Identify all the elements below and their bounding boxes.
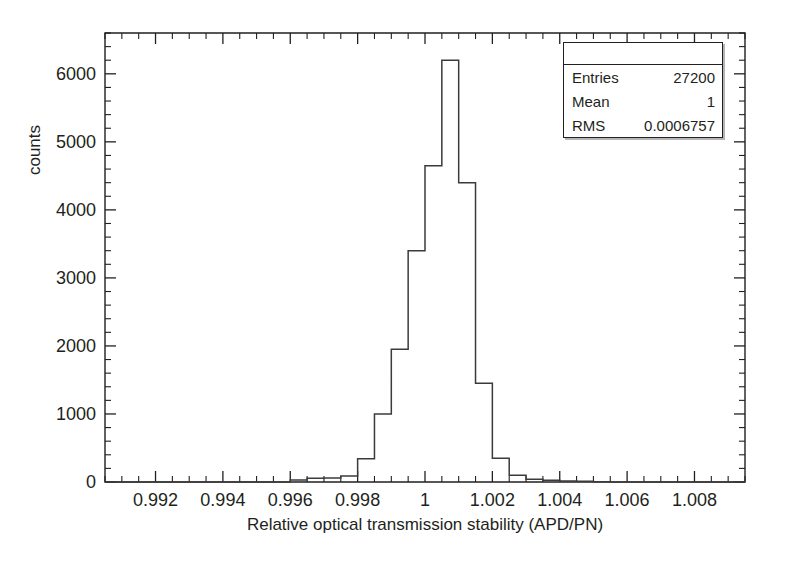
y-tick-label: 4000 [56,200,96,220]
chart-canvas: 0.9920.9940.9960.99811.0021.0041.0061.00… [0,0,785,561]
stats-rows: Entries27200Mean1RMS0.0006757 [564,65,722,137]
x-axis-title: Relative optical transmission stability … [247,515,603,534]
y-tick-label: 5000 [56,132,96,152]
y-tick-label: 2000 [56,336,96,356]
stats-row-key: Mean [572,93,610,110]
y-tick-label: 0 [86,472,96,492]
stats-row-key: RMS [572,117,605,134]
stats-row-value: 27200 [673,69,715,86]
stats-row: Mean1 [564,89,722,113]
stats-row: RMS0.0006757 [564,113,722,137]
x-tick-label: 1.008 [672,490,717,510]
x-tick-label: 1.006 [605,490,650,510]
y-tick-label: 3000 [56,268,96,288]
x-tick-label: 1.002 [470,490,515,510]
stats-title-text [564,43,722,64]
x-tick-label: 0.996 [268,490,313,510]
stats-row-key: Entries [572,69,619,86]
x-axis-tick-labels: 0.9920.9940.9960.99811.0021.0041.0061.00… [133,490,717,510]
stats-row-value: 0.0006757 [644,117,715,134]
x-tick-label: 1 [420,490,430,510]
y-axis-tick-labels: 0100020003000400050006000 [56,64,96,492]
stats-row: Entries27200 [564,65,722,89]
statistics-box: Entries27200Mean1RMS0.0006757 [563,42,723,138]
x-tick-label: 0.998 [335,490,380,510]
y-tick-label: 1000 [56,404,96,424]
x-tick-label: 1.004 [537,490,582,510]
stats-row-value: 1 [707,93,715,110]
y-tick-label: 6000 [56,64,96,84]
x-tick-label: 0.992 [133,490,178,510]
stats-title-row [564,43,722,65]
x-tick-label: 0.994 [200,490,245,510]
y-axis-title: counts [25,125,44,175]
